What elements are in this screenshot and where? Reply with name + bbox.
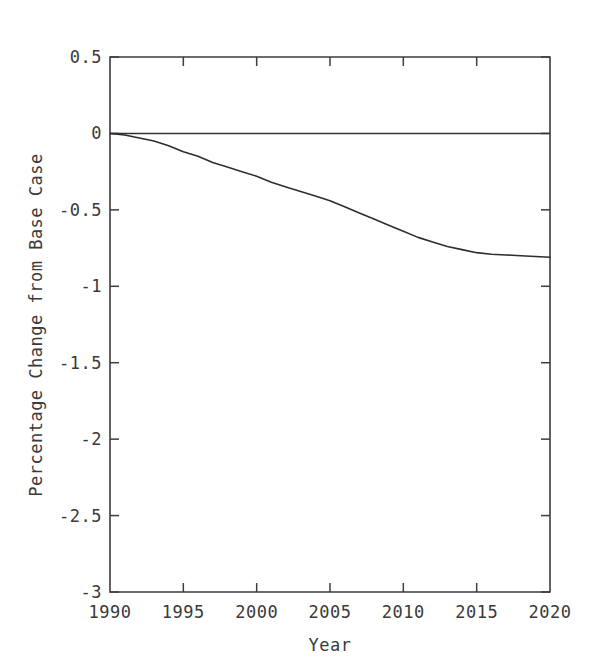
y-tick-label: -0.5 [59, 200, 102, 220]
y-tick-label: -2 [81, 429, 102, 449]
y-axis-title: Percentage Change from Base Case [26, 153, 46, 497]
x-tick-label: 2020 [529, 602, 572, 622]
y-tick-label: -3 [81, 582, 102, 602]
x-tick-label: 1990 [89, 602, 132, 622]
x-axis-title: Year [309, 635, 352, 655]
plot-frame [110, 57, 550, 592]
x-axis-ticks [183, 57, 476, 592]
x-tick-labels: 1990199520002005201020152020 [89, 602, 572, 622]
y-tick-label: 0.5 [70, 47, 102, 67]
x-tick-label: 2015 [455, 602, 498, 622]
x-tick-label: 2005 [309, 602, 352, 622]
x-tick-label: 1995 [162, 602, 205, 622]
figure-container: 0.50-0.5-1-1.5-2-2.5-3 19901995200020052… [0, 0, 599, 671]
x-tick-label: 2000 [235, 602, 278, 622]
x-tick-label: 2010 [382, 602, 425, 622]
line-chart: 0.50-0.5-1-1.5-2-2.5-3 19901995200020052… [0, 0, 599, 671]
y-tick-label: -2.5 [59, 506, 102, 526]
y-tick-labels: 0.50-0.5-1-1.5-2-2.5-3 [59, 47, 102, 602]
y-tick-label: 0 [91, 123, 102, 143]
y-axis-ticks [110, 57, 550, 592]
y-tick-label: -1 [81, 276, 102, 296]
y-tick-label: -1.5 [59, 353, 102, 373]
data-series-line [110, 133, 550, 257]
